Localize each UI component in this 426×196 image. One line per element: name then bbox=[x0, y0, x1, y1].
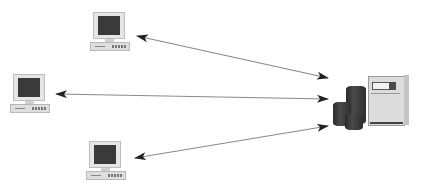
drive-slot bbox=[15, 108, 25, 109]
keyboard bbox=[32, 107, 46, 110]
link-middle-client-server bbox=[56, 94, 328, 99]
drive-slot bbox=[95, 46, 105, 47]
link-bottom-client-server bbox=[135, 126, 328, 158]
monitor bbox=[89, 141, 121, 168]
computer-base bbox=[86, 171, 126, 180]
cabinet-divider bbox=[371, 93, 400, 94]
cabinet-foot bbox=[370, 122, 403, 124]
screen bbox=[94, 145, 116, 164]
server-cabinet bbox=[368, 76, 405, 126]
monitor bbox=[93, 12, 125, 39]
keyboard bbox=[108, 174, 122, 177]
drive-slot bbox=[91, 175, 101, 176]
cabinet-side bbox=[404, 75, 409, 125]
screen bbox=[18, 78, 40, 97]
server-icon bbox=[328, 74, 410, 134]
control-panel bbox=[389, 82, 396, 90]
monitor bbox=[13, 74, 45, 101]
client-bottom-computer-icon bbox=[86, 141, 126, 183]
computer-base bbox=[90, 42, 130, 51]
client-top-computer-icon bbox=[90, 12, 130, 54]
keyboard bbox=[112, 45, 126, 48]
link-top-client-server bbox=[137, 36, 328, 78]
screen bbox=[98, 16, 120, 35]
storage-cylinder-front bbox=[345, 114, 363, 130]
computer-base bbox=[10, 104, 50, 113]
client-middle-computer-icon bbox=[10, 74, 50, 116]
